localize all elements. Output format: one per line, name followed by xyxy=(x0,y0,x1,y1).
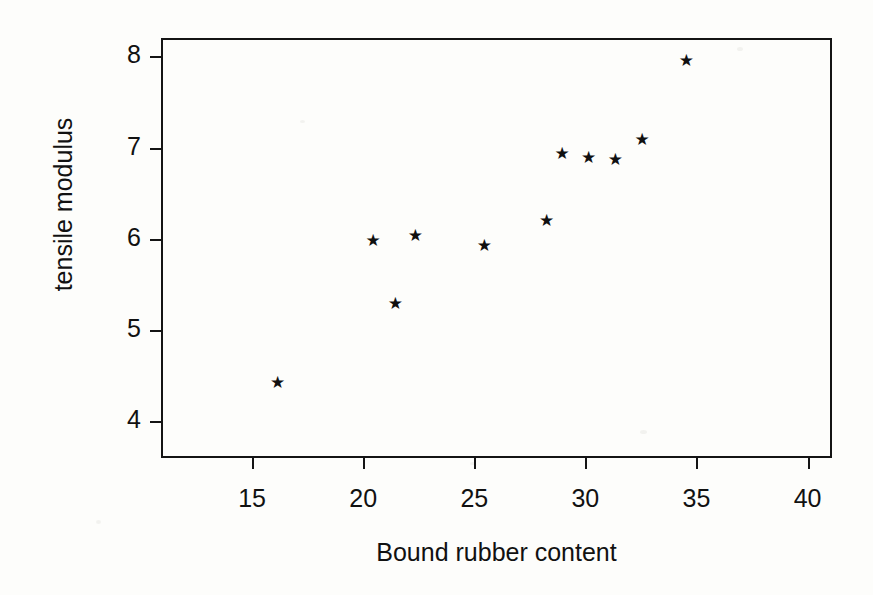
x-tick-20 xyxy=(363,458,365,469)
scatter-plot-figure: ★★★★★★★★★★★ 45678 152025303540 tensile m… xyxy=(0,0,873,595)
x-axis-tick-labels: 152025303540 xyxy=(161,486,832,520)
data-point: ★ xyxy=(679,54,692,67)
x-tick-label-15: 15 xyxy=(212,486,292,511)
x-tick-label-20: 20 xyxy=(323,486,403,511)
y-tick-label-6: 6 xyxy=(101,225,141,250)
data-point: ★ xyxy=(554,147,567,160)
y-axis-tick-labels: 45678 xyxy=(95,38,141,458)
x-tick-35 xyxy=(696,458,698,469)
data-point: ★ xyxy=(608,153,621,166)
x-tick-25 xyxy=(474,458,476,469)
x-axis-label: Bound rubber content xyxy=(161,538,832,567)
x-tick-label-40: 40 xyxy=(768,486,848,511)
data-point: ★ xyxy=(539,214,552,227)
y-tick-6 xyxy=(150,239,161,241)
data-point: ★ xyxy=(270,376,283,389)
data-point: ★ xyxy=(388,297,401,310)
x-tick-30 xyxy=(585,458,587,469)
y-tick-5 xyxy=(150,330,161,332)
y-tick-8 xyxy=(150,56,161,58)
data-point: ★ xyxy=(366,234,379,247)
y-tick-label-5: 5 xyxy=(101,316,141,341)
y-tick-label-8: 8 xyxy=(101,42,141,67)
y-tick-label-7: 7 xyxy=(101,134,141,159)
data-point: ★ xyxy=(581,151,594,164)
x-tick-label-35: 35 xyxy=(656,486,736,511)
scan-speck xyxy=(96,520,101,524)
plot-area: ★★★★★★★★★★★ xyxy=(161,38,832,458)
data-point: ★ xyxy=(634,133,647,146)
y-axis-label: tensile modulus xyxy=(49,90,78,320)
data-point: ★ xyxy=(477,239,490,252)
y-tick-label-4: 4 xyxy=(101,407,141,432)
y-tick-4 xyxy=(150,421,161,423)
y-tick-7 xyxy=(150,148,161,150)
x-tick-label-30: 30 xyxy=(545,486,625,511)
x-tick-15 xyxy=(252,458,254,469)
x-tick-40 xyxy=(808,458,810,469)
data-point: ★ xyxy=(408,229,421,242)
x-tick-label-25: 25 xyxy=(434,486,514,511)
